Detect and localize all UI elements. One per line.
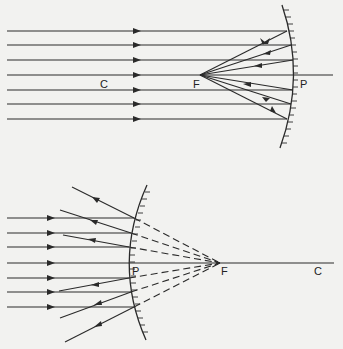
concave-mirror-diagram — [7, 5, 333, 148]
label-pole-top: P — [300, 78, 307, 90]
label-center-top: C — [100, 78, 108, 90]
reflected-rays — [59, 187, 134, 342]
ray-diagram-canvas: C F P — [0, 0, 343, 349]
mirror-hatching — [282, 10, 298, 143]
label-focus-bottom: F — [221, 265, 228, 277]
mirror-hatching — [130, 192, 150, 332]
convex-mirror-diagram — [7, 185, 334, 342]
label-center-bottom: C — [314, 265, 322, 277]
concave-mirror — [280, 5, 294, 148]
label-focus-top: F — [193, 78, 200, 90]
label-pole-bottom: P — [132, 265, 139, 277]
